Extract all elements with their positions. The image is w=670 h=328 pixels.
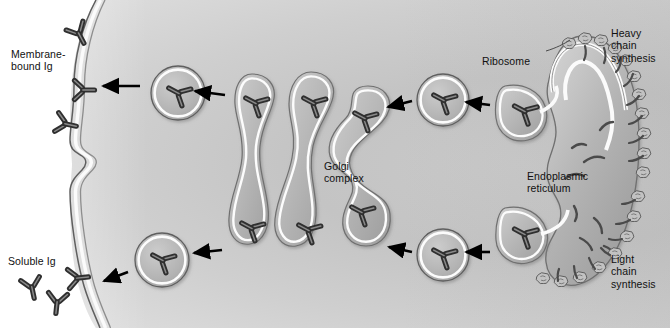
label-soluble-ig: Soluble Ig xyxy=(8,255,56,267)
membrane-bound-ig-molecules xyxy=(55,21,95,135)
label-light-chain-synthesis: Light chain synthesis xyxy=(611,253,656,290)
figure-canvas: Membrane- bound Ig Soluble Ig Golgi comp… xyxy=(0,0,670,328)
label-golgi-complex: Golgi complex xyxy=(324,160,364,185)
soluble-ig-molecules xyxy=(21,267,90,314)
arrow-vesicle-to-golgi-upper xyxy=(388,101,412,107)
arrow-vesicle-to-soluble xyxy=(104,272,128,281)
label-membrane-bound-ig: Membrane- bound Ig xyxy=(11,48,66,73)
label-ribosome: Ribosome xyxy=(482,55,530,67)
endoplasmic-reticulum xyxy=(495,33,650,287)
arrow-er-to-vesicle-upper xyxy=(466,102,490,105)
arrow-golgi-to-vesicle-lower xyxy=(194,250,222,253)
label-heavy-chain-synthesis: Heavy chain synthesis xyxy=(611,27,656,64)
golgi-complex xyxy=(229,72,390,246)
arrow-vesicle-to-golgi-lower xyxy=(389,247,412,252)
label-endoplasmic-reticulum: Endoplasmic reticulum xyxy=(527,170,588,195)
